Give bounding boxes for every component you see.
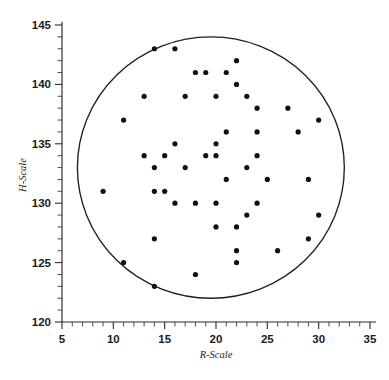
x-tick-label: 5 <box>59 333 66 345</box>
data-point <box>224 70 229 75</box>
data-point <box>193 201 198 206</box>
scatter-plot-figure: 120125130135140145 5101520253035 H-Scale… <box>0 0 389 380</box>
data-point <box>224 129 229 134</box>
data-point <box>254 106 259 111</box>
data-point <box>213 94 218 99</box>
data-point <box>172 141 177 146</box>
x-tick-label: 20 <box>210 333 223 345</box>
data-point <box>121 117 126 122</box>
y-axis-title: H-Scale <box>17 158 28 193</box>
data-point <box>224 177 229 182</box>
y-tick-label: 125 <box>32 257 52 269</box>
data-point <box>152 46 157 51</box>
data-point <box>244 212 249 217</box>
data-point <box>275 248 280 253</box>
y-axis: 120125130135140145 <box>32 19 62 328</box>
x-tick-label: 30 <box>312 333 325 345</box>
data-point <box>193 272 198 277</box>
data-point <box>152 284 157 289</box>
data-point <box>213 201 218 206</box>
data-point <box>203 153 208 158</box>
data-point <box>152 189 157 194</box>
data-point <box>213 153 218 158</box>
y-tick-label: 135 <box>32 138 52 150</box>
data-point <box>152 236 157 241</box>
x-axis-title: R-Scale <box>199 349 233 360</box>
data-point <box>285 106 290 111</box>
data-point <box>213 141 218 146</box>
y-tick-label: 140 <box>32 78 51 90</box>
data-point <box>296 129 301 134</box>
data-point <box>306 236 311 241</box>
data-point <box>172 201 177 206</box>
data-point <box>121 260 126 265</box>
data-point <box>183 165 188 170</box>
data-point <box>265 177 270 182</box>
x-tick-label: 35 <box>364 333 377 345</box>
data-point <box>152 165 157 170</box>
data-point <box>306 177 311 182</box>
x-tick-label: 15 <box>158 333 171 345</box>
annotation-layer <box>77 37 344 298</box>
data-point <box>183 94 188 99</box>
data-point <box>254 201 259 206</box>
data-point <box>234 224 239 229</box>
data-point <box>234 260 239 265</box>
data-point <box>316 212 321 217</box>
data-point <box>162 189 167 194</box>
data-point <box>142 153 147 158</box>
data-point <box>244 165 249 170</box>
tolerance-boundary-circle <box>77 37 344 298</box>
data-point <box>100 189 105 194</box>
x-axis: 5101520253035 <box>59 322 377 345</box>
plot-canvas: 120125130135140145 5101520253035 H-Scale… <box>0 0 389 380</box>
y-tick-label: 120 <box>32 316 51 328</box>
data-point <box>316 117 321 122</box>
x-tick-label: 10 <box>107 333 120 345</box>
data-point <box>193 70 198 75</box>
data-point <box>172 46 177 51</box>
data-point <box>234 82 239 87</box>
y-tick-label: 130 <box>32 197 51 209</box>
data-point <box>244 94 249 99</box>
data-point <box>234 58 239 63</box>
data-point <box>234 248 239 253</box>
data-points-layer <box>100 46 321 289</box>
data-point <box>254 129 259 134</box>
data-point <box>254 153 259 158</box>
data-point <box>142 94 147 99</box>
data-point <box>203 70 208 75</box>
x-tick-label: 25 <box>261 333 274 345</box>
y-tick-label: 145 <box>32 19 52 31</box>
data-point <box>213 224 218 229</box>
data-point <box>162 153 167 158</box>
